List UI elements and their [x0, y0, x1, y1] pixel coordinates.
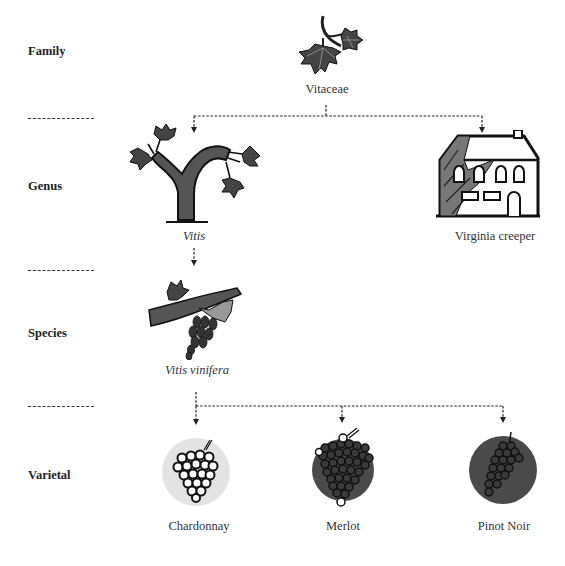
node-label-vitis: Vitis — [183, 229, 205, 244]
pinot-noir-grape-cluster-icon — [467, 428, 539, 506]
vine-leaf-icon — [285, 14, 365, 80]
node-virginia-creeper — [434, 130, 542, 226]
node-chardonnay — [160, 436, 234, 510]
node-vitaceae — [285, 14, 365, 84]
node-pinot-noir — [467, 428, 539, 510]
ivy-covered-house-icon — [434, 130, 542, 222]
node-label-chardonnay: Chardonnay — [168, 519, 229, 534]
grapevine-trunk-icon — [126, 122, 262, 226]
node-merlot — [311, 428, 377, 512]
node-label-pinot-noir: Pinot Noir — [478, 519, 530, 534]
node-label-virginia-creeper: Virginia creeper — [455, 229, 536, 244]
vine-branch-with-grapes-icon — [147, 278, 245, 360]
node-label-merlot: Merlot — [326, 519, 360, 534]
node-label-vitaceae: Vitaceae — [306, 82, 349, 97]
white-grape-cluster-icon — [160, 436, 234, 506]
node-vitis-vinifera — [147, 278, 245, 364]
node-vitis — [126, 122, 262, 230]
node-label-vitis-vinifera: Vitis vinifera — [165, 363, 229, 378]
merlot-grape-cluster-icon — [311, 428, 377, 508]
